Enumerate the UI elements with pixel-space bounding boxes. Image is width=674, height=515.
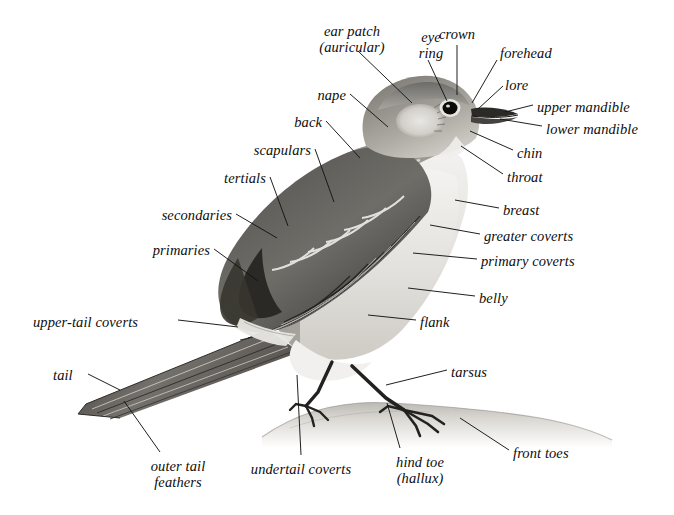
label-tertials: tertials	[200, 171, 266, 187]
label-lower-mandible: lower mandible	[546, 122, 674, 138]
label-tail: tail	[53, 368, 85, 384]
label-tarsus: tarsus	[451, 365, 505, 381]
lore-leader	[478, 86, 503, 109]
upper-mandible-leader	[505, 105, 533, 112]
back-leader	[326, 121, 360, 158]
label-throat: throat	[507, 170, 563, 186]
ear-patch-area	[396, 104, 444, 138]
eye	[443, 102, 458, 115]
label-greater-coverts: greater coverts	[484, 229, 614, 245]
label-nape: nape	[300, 88, 346, 104]
label-primary-coverts: primary coverts	[481, 254, 611, 270]
label-secondaries: secondaries	[136, 208, 232, 224]
label-upper-tail-coverts: upper-tail coverts	[33, 315, 175, 331]
head	[363, 76, 518, 158]
label-scapulars: scapulars	[229, 143, 311, 159]
label-chin: chin	[517, 146, 559, 162]
label-ear-patch: ear patch (auricular)	[303, 24, 401, 55]
chin-leader	[470, 131, 513, 150]
label-primaries: primaries	[132, 243, 210, 259]
label-hind-toe: hind toe (hallux)	[383, 455, 457, 486]
lower-mandible-leader	[500, 119, 542, 126]
label-breast: breast	[503, 203, 561, 219]
label-forehead: forehead	[500, 46, 572, 62]
tail-feathers	[78, 330, 300, 419]
label-upper-mandible: upper mandible	[537, 100, 665, 116]
label-back: back	[278, 115, 322, 131]
label-crown: crown	[428, 27, 486, 43]
label-front-toes: front toes	[513, 446, 597, 462]
label-belly: belly	[479, 291, 525, 307]
forehead-leader	[472, 60, 497, 103]
throat-leader	[461, 146, 503, 174]
label-flank: flank	[420, 315, 466, 331]
label-outer-tail-feathers: outer tail feathers	[136, 459, 220, 490]
bird-topography-diagram: ear patch (auricular)eye ringcrownforehe…	[0, 0, 674, 515]
tail-leader	[88, 374, 120, 390]
label-lore: lore	[505, 78, 545, 94]
tarsus-leader	[386, 370, 447, 385]
label-undertail-coverts: undertail coverts	[231, 462, 371, 478]
